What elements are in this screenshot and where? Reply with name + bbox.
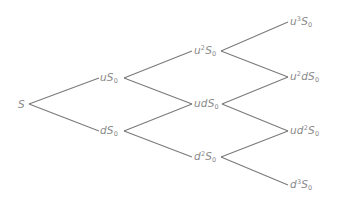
edge-d2s0-to-ud2s0 [221,131,288,157]
node-ud2s0: ud2S0 [290,125,319,138]
node-label: d [194,150,201,162]
edge-uds0-to-u2ds0 [222,77,288,104]
edge-s-to-ds0 [29,104,99,131]
node-label: ud [290,124,304,136]
node-subscript: 0 [212,156,216,164]
node-label: uS [100,71,114,83]
node-d3s0: d3S0 [290,179,312,192]
node-us0: uS0 [100,72,118,85]
node-d2s0: d2S0 [194,151,216,164]
node-label: S [18,98,25,110]
node-label-tail: dS [301,70,315,82]
edge-d2s0-to-d3s0 [221,157,288,185]
edge-u2s0-to-u2ds0 [221,51,288,77]
node-label: udS [194,97,215,109]
node-ds0: dS0 [100,125,118,138]
node-subscript: 0 [315,130,319,138]
node-u2s0: u2S0 [194,45,216,58]
node-subscript: 0 [114,77,118,85]
edge-ds0-to-uds0 [124,104,192,131]
node-root-s: S [18,99,25,110]
node-label: d [290,178,297,190]
node-subscript: 0 [308,21,312,29]
node-label-tail: S [308,124,315,136]
edge-us0-to-u2s0 [124,51,192,78]
node-u2ds0: u2dS0 [290,71,319,84]
edge-uds0-to-ud2s0 [222,104,288,131]
node-subscript: 0 [212,50,216,58]
node-label: dS [100,124,114,136]
node-subscript: 0 [315,76,319,84]
node-u3s0: u3S0 [290,16,312,29]
edge-u2s0-to-u3s0 [221,22,288,51]
edge-s-to-us0 [29,78,99,104]
edge-us0-to-uds0 [124,78,192,104]
node-subscript: 0 [308,184,312,192]
edge-ds0-to-d2s0 [124,131,192,157]
node-label: u [194,44,201,56]
node-subscript: 0 [215,103,219,111]
node-label: u [290,15,297,27]
node-subscript: 0 [114,130,118,138]
node-uds0: udS0 [194,98,219,111]
node-label: u [290,70,297,82]
binomial-tree-edges [0,0,340,205]
